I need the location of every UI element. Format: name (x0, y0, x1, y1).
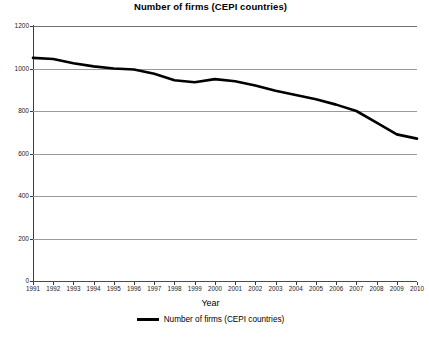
x-tick-mark-2001 (235, 282, 236, 285)
y-tick-label-1000: 1000 (0, 65, 29, 72)
y-tick-label-800: 800 (0, 107, 29, 114)
chart-title: Number of firms (CEPI countries) (0, 1, 421, 12)
y-tick-label-400: 400 (0, 192, 29, 199)
x-tick-mark-1992 (53, 282, 54, 285)
x-tick-mark-2005 (316, 282, 317, 285)
y-axis-title: Firms (0, 125, 1, 149)
series-line-chart (33, 26, 417, 281)
x-tick-mark-1997 (154, 282, 155, 285)
x-tick-mark-1993 (73, 282, 74, 285)
x-tick-mark-1996 (134, 282, 135, 285)
plot-area (33, 26, 417, 281)
x-tick-mark-1995 (114, 282, 115, 285)
y-tick-label-200: 200 (0, 235, 29, 242)
x-tick-mark-2000 (215, 282, 216, 285)
x-tick-label-2010: 2010 (403, 285, 429, 293)
x-tick-mark-1994 (94, 282, 95, 285)
gridline-0 (33, 281, 417, 282)
x-tick-mark-2006 (336, 282, 337, 285)
y-tick-label-600: 600 (0, 150, 29, 157)
y-tick-label-0: 0 (0, 277, 29, 284)
x-axis-title: Year (0, 298, 421, 308)
legend-label-number-of-firms: Number of firms (CEPI countries) (164, 315, 285, 324)
x-tick-mark-1991 (33, 282, 34, 285)
legend-swatch-number-of-firms (137, 318, 159, 321)
x-tick-mark-1998 (174, 282, 175, 285)
x-tick-mark-2008 (377, 282, 378, 285)
y-tick-label-1200: 1200 (0, 22, 29, 29)
x-tick-mark-2009 (397, 282, 398, 285)
x-tick-mark-2007 (356, 282, 357, 285)
x-tick-mark-2010 (417, 282, 418, 285)
x-tick-mark-2004 (296, 282, 297, 285)
x-tick-mark-2002 (255, 282, 256, 285)
x-tick-mark-1999 (195, 282, 196, 285)
series-line-number-of-firms (33, 58, 417, 139)
x-tick-mark-2003 (276, 282, 277, 285)
chart-legend: Number of firms (CEPI countries) (0, 315, 421, 324)
